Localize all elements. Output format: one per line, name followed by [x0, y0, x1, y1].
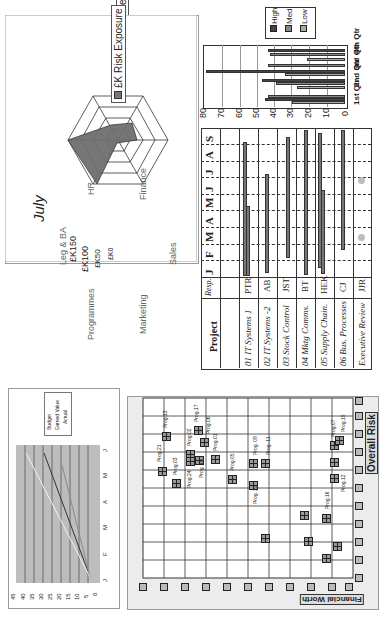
ring-label-150: £K150	[68, 236, 78, 262]
worth-tick	[265, 583, 273, 591]
bar-gridline	[222, 45, 223, 107]
program-label: Prog. 23	[252, 485, 258, 504]
x-axis-title: Overall Risk	[365, 412, 378, 474]
program-label: Prog.17	[193, 404, 199, 422]
program-marker[interactable]	[200, 438, 209, 447]
program-marker[interactable]	[249, 459, 258, 468]
program-label: Prog.05	[229, 453, 235, 471]
risk-tick	[355, 484, 363, 492]
program-marker[interactable]	[211, 455, 220, 464]
gantt-bar[interactable]	[265, 174, 269, 273]
ring-label-0: £K0	[107, 248, 114, 260]
gantt-bar[interactable]	[304, 130, 308, 275]
program-marker[interactable]	[330, 474, 339, 483]
bar-ytick: 80	[198, 108, 208, 118]
gantt-month-sep	[201, 260, 371, 262]
legend-earned-value: Earned Value	[54, 400, 60, 430]
evm-ytick: 15	[65, 593, 71, 600]
radar-legend: £K Risk Exposure	[111, 5, 126, 103]
program-label: Prog.13	[162, 410, 168, 428]
bar-ytick: 30	[285, 108, 295, 118]
bar-category: 4th Qtr	[352, 28, 361, 54]
program-marker[interactable]	[304, 537, 313, 546]
risk-tick	[355, 412, 363, 420]
risk-tick	[355, 502, 363, 510]
program-marker[interactable]	[194, 426, 203, 435]
bar-gridline	[240, 45, 241, 107]
program-marker[interactable]	[261, 534, 270, 543]
project-cell: 04 Mktg Comms.	[300, 305, 310, 366]
worth-tick	[202, 583, 210, 591]
evm-xtick: M	[102, 473, 108, 478]
program-marker[interactable]	[335, 436, 344, 445]
evm-xtick: J	[102, 449, 108, 452]
program-label: Prog. 09	[252, 436, 258, 455]
month-label: J	[203, 270, 215, 276]
program-marker[interactable]	[300, 511, 309, 520]
worth-tick	[181, 583, 189, 591]
gantt-bar[interactable]	[286, 137, 290, 258]
program-marker[interactable]	[228, 475, 237, 484]
gantt-bar[interactable]	[246, 206, 250, 276]
legend-swatch-icon	[270, 25, 277, 32]
risk-tick	[355, 397, 363, 405]
milestone-icon	[358, 177, 365, 184]
evm-xtick: F	[102, 552, 108, 556]
worth-tick	[286, 583, 294, 591]
risk-tick	[355, 430, 363, 438]
axis-label-programmes: Programmes	[86, 288, 96, 340]
program-label: Prog.21	[156, 444, 162, 462]
legend-swatch-icon	[300, 25, 307, 32]
bar-ytick: 60	[234, 108, 244, 118]
program-marker[interactable]	[162, 432, 171, 441]
legend-med: Med.	[285, 6, 294, 32]
milestone-icon	[358, 234, 365, 241]
gantt-bar[interactable]	[341, 130, 345, 250]
risk-tick	[355, 538, 363, 546]
bar-ytick: 40	[268, 108, 278, 118]
gantt-bar[interactable]	[321, 190, 325, 274]
bar-low	[285, 73, 345, 76]
project-cell: 03 Stock Control	[281, 305, 291, 366]
bar-ytick: 70	[216, 108, 226, 118]
program-marker[interactable]	[186, 457, 195, 466]
project-cell: 05 Supply Chain.	[319, 304, 329, 366]
month-label: J	[203, 170, 215, 176]
program-label: Prog.24	[186, 470, 192, 488]
program-marker[interactable]	[261, 459, 270, 468]
evm-xtick: J	[102, 579, 108, 582]
legend-high: High	[270, 8, 279, 32]
evm-ytick: 40	[20, 593, 26, 600]
bar-med	[276, 82, 345, 85]
worth-tick	[139, 583, 147, 591]
program-label: Prog. 19	[198, 459, 204, 478]
worth-tick	[307, 583, 315, 591]
bar-low	[307, 58, 345, 61]
resp-cell: BT	[300, 280, 310, 292]
worth-tick	[223, 583, 231, 591]
axis-label-marketing: Marketing	[138, 294, 148, 334]
program-marker[interactable]	[322, 554, 331, 563]
ring-label-50: £K50	[93, 249, 102, 268]
resp-cell: AB	[262, 279, 272, 292]
actual-line	[26, 453, 90, 577]
worth-tick	[244, 583, 252, 591]
project-cell: 06 Bus. Processes	[338, 301, 348, 366]
program-marker[interactable]	[322, 514, 331, 523]
program-marker[interactable]	[330, 458, 339, 467]
month-label: A	[203, 151, 215, 159]
program-label: Prog.02	[186, 428, 192, 446]
program-marker[interactable]	[172, 479, 181, 488]
project-cell: Executive Review	[357, 303, 367, 366]
month-label: A	[203, 217, 215, 225]
program-marker[interactable]	[333, 542, 342, 551]
program-label: Prog.15	[340, 414, 346, 432]
risk-tick	[355, 556, 363, 564]
bar-low	[292, 101, 345, 104]
program-label: Prog.06	[205, 416, 211, 434]
month-label: F	[203, 251, 215, 258]
bar-med	[268, 64, 345, 67]
program-label: Prog.01	[212, 433, 218, 451]
program-marker[interactable]	[158, 467, 167, 476]
worth-tick	[328, 583, 336, 591]
